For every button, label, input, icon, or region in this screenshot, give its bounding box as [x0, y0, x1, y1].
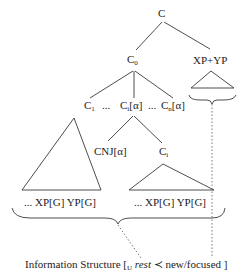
precedence-symbol: ≺: [154, 258, 163, 270]
edge-c-c0: [136, 22, 162, 50]
edge-c0-c1: [90, 71, 133, 98]
ellipsis-2: ...: [148, 100, 156, 111]
right-triangle: [129, 164, 214, 190]
dotted-line-left: [118, 225, 141, 258]
right-leaves: ... XP[G] YP[G]: [134, 197, 206, 208]
information-structure-label: Information Structure [U rest ≺ new/focu…: [25, 259, 227, 272]
node-c: C: [158, 8, 165, 19]
left-leaves: ... XP[G] YP[G]: [24, 197, 96, 208]
edge-c0-cn: [135, 71, 173, 98]
edge-ci-cnj: [108, 116, 133, 141]
xpyp-triangle: [191, 71, 234, 88]
left-big-triangle: [22, 118, 101, 190]
node-ci-alpha: Ci[α]: [120, 100, 142, 113]
node-c0: C0: [127, 54, 138, 67]
tree-diagram: [0, 0, 246, 277]
node-ci: Ci: [159, 146, 168, 159]
node-cnj-alpha: CNJ[α]: [94, 146, 127, 157]
node-cn-alpha: Cn[α]: [161, 100, 185, 113]
edge-c-xpyp: [164, 22, 210, 49]
ellipsis-1: ...: [102, 100, 110, 111]
edge-ci-ci: [134, 116, 162, 143]
right-brace: [189, 95, 236, 104]
big-brace: [12, 208, 225, 224]
node-xp-yp: XP+YP: [193, 55, 227, 66]
node-c1: C1: [84, 100, 95, 113]
